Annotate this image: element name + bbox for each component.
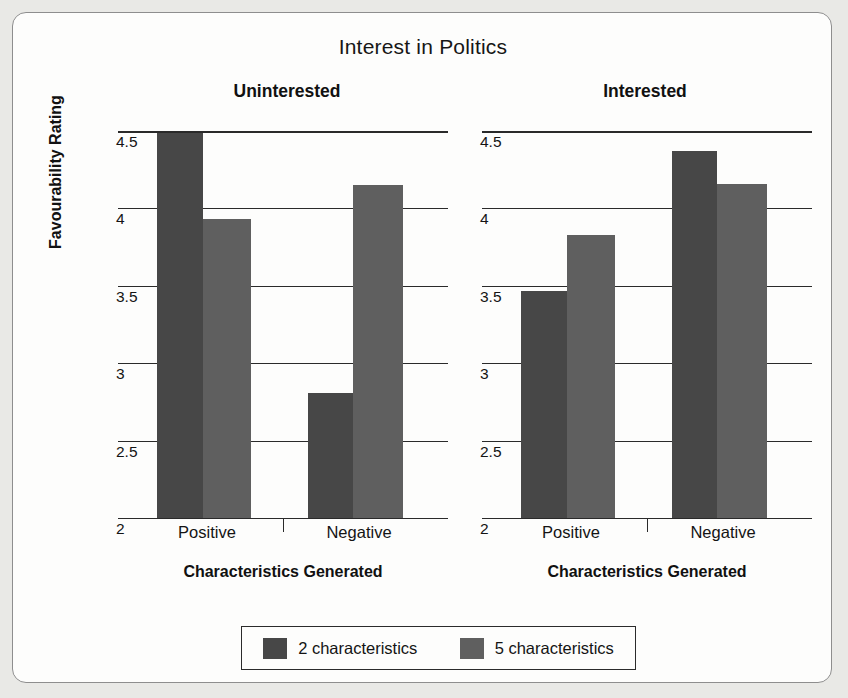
bar-uninterested-positive-5char[interactable] (203, 219, 251, 518)
xcat-label-positive: Positive (160, 523, 254, 542)
plot-area-interested: 4.5 4 3.5 3 2.5 2 Positive Negative Char… (482, 131, 812, 518)
bar-uninterested-positive-2char[interactable] (157, 133, 203, 518)
ytick-label-4.5: 4.5 (116, 134, 138, 150)
panel-title-interested: Interested (465, 81, 815, 102)
bar-interested-positive-2char[interactable] (521, 291, 567, 519)
figure-card: Interest in Politics Favourability Ratin… (12, 12, 832, 683)
ytick-label-3.5: 3.5 (116, 289, 138, 305)
ytick-label-2: 2 (480, 521, 489, 537)
xtick-divider (647, 518, 648, 532)
y-axis-title: Favourability Rating (47, 95, 65, 249)
ytick-label-4.5: 4.5 (480, 134, 502, 150)
ytick-label-3: 3 (116, 366, 125, 382)
ytick-label-2.5: 2.5 (480, 444, 502, 460)
xtick-divider (283, 518, 284, 532)
ytick-label-2.5: 2.5 (116, 444, 138, 460)
ytick-label-3.5: 3.5 (480, 289, 502, 305)
bar-interested-negative-2char[interactable] (672, 151, 717, 518)
legend: 2 characteristics 5 characteristics (241, 626, 636, 670)
xcat-label-positive: Positive (524, 523, 618, 542)
ytick-label-4: 4 (480, 211, 489, 227)
x-axis-title-uninterested: Characteristics Generated (118, 563, 448, 581)
bar-uninterested-negative-5char[interactable] (353, 185, 403, 518)
legend-item-5-characteristics[interactable]: 5 characteristics (460, 638, 614, 659)
x-axis-title-interested: Characteristics Generated (482, 563, 812, 581)
panel-title-uninterested: Uninterested (101, 81, 451, 102)
ytick-label-4: 4 (116, 211, 125, 227)
bar-interested-positive-5char[interactable] (567, 235, 615, 518)
legend-label-5char: 5 characteristics (495, 639, 614, 658)
legend-label-2char: 2 characteristics (298, 639, 417, 658)
xcat-label-negative: Negative (674, 523, 772, 542)
bar-interested-negative-5char[interactable] (717, 184, 767, 518)
legend-swatch-icon-5char (460, 638, 484, 659)
bar-uninterested-negative-2char[interactable] (308, 393, 353, 518)
ytick-label-2: 2 (116, 521, 125, 537)
xcat-label-negative: Negative (310, 523, 408, 542)
ytick-label-3: 3 (480, 366, 489, 382)
plot-area-uninterested: 4.5 4 3.5 3 2.5 2 Positive Negative Char… (118, 131, 448, 518)
chart-title: Interest in Politics (13, 35, 833, 59)
panel-interested: Interested 4.5 4 3.5 3 2.5 2 Positiv (465, 81, 815, 641)
legend-swatch-icon-2char (263, 638, 287, 659)
gridline-4.5 (482, 131, 812, 133)
panel-uninterested: Uninterested 4.5 4 3.5 3 2.5 2 Posit (101, 81, 451, 641)
legend-item-2-characteristics[interactable]: 2 characteristics (263, 638, 417, 659)
